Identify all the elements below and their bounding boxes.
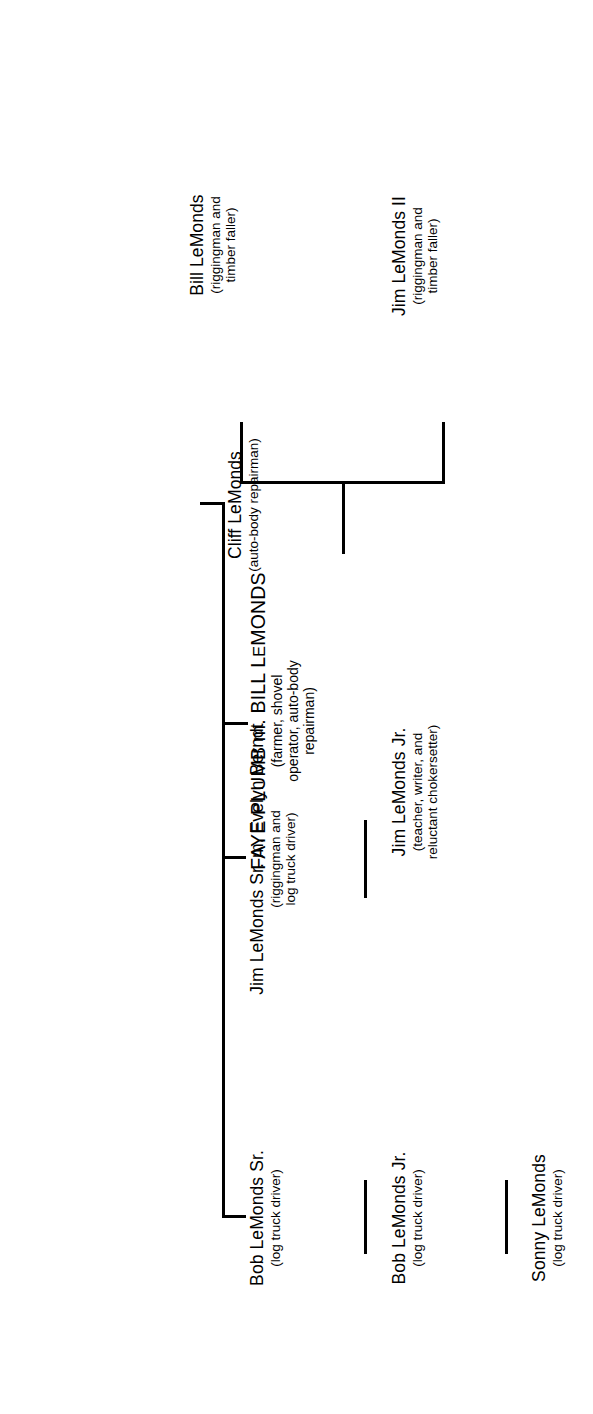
node-jim-lemonds-sr: Jim LeMonds Sr. m. Evelyn Berndt (riggin… (248, 609, 298, 1109)
node-jim-lemonds-ii-occupation: (riggingman and timber faller) (410, 111, 441, 401)
connector-root-to-jim-sr (222, 856, 246, 859)
node-jim-lemonds-jr: Jim LeMonds Jr. (teacher, writer, and re… (390, 542, 440, 1042)
node-sonny-lemonds-occupation: (log truck driver) (550, 1098, 565, 1338)
node-bob-lemonds-jr-name: Bob LeMonds Jr. (390, 1098, 410, 1338)
connector-cliff-to-bill (240, 422, 243, 484)
node-cliff-lemonds-name: Cliff LeMonds (226, 359, 246, 651)
node-cliff-lemonds-occupation: (auto-body repairman) (246, 359, 261, 651)
connector-root-stem (222, 722, 248, 725)
connector-root-to-bob-sr (222, 1215, 246, 1218)
connector-bob-sr-to-bob-jr (364, 1180, 367, 1254)
node-jim-lemonds-sr-name: Jim LeMonds Sr. m. Evelyn Berndt (248, 609, 268, 1109)
node-bob-lemonds-jr-occupation: (log truck driver) (410, 1098, 425, 1338)
node-cliff-lemonds: Cliff LeMonds (auto-body repairman) (226, 359, 261, 651)
node-bill-lemonds-occupation: (riggingman and timber faller) (208, 100, 239, 390)
connector-cliff-to-jim-ii (442, 422, 445, 484)
node-bob-lemonds-sr-occupation: (log truck driver) (268, 1098, 283, 1338)
node-bill-lemonds-name: Bill LeMonds (188, 100, 208, 390)
connector-cliff-stem (342, 482, 345, 554)
node-sonny-lemonds-name: Sonny LeMonds (530, 1098, 550, 1338)
family-tree-canvas: FAYE PLUMB m. BILL LEMONDS (farmer, shov… (0, 0, 593, 1414)
node-jim-lemonds-jr-name: Jim LeMonds Jr. (390, 542, 410, 1042)
node-bill-lemonds: Bill LeMonds (riggingman and timber fall… (188, 100, 238, 390)
connector-cliff-children-bar (240, 481, 445, 484)
connector-bob-jr-to-sonny (505, 1180, 508, 1254)
node-jim-lemonds-ii-name: Jim LeMonds II (390, 111, 410, 401)
node-bob-lemonds-jr: Bob LeMonds Jr. (log truck driver) (390, 1098, 425, 1338)
node-sonny-lemonds: Sonny LeMonds (log truck driver) (530, 1098, 565, 1338)
node-jim-lemonds-sr-occupation: (riggingman and log truck driver) (268, 609, 299, 1109)
node-jim-lemonds-jr-occupation: (teacher, writer, and reluctant chokerse… (410, 542, 441, 1042)
family-tree-page: FAYE PLUMB m. BILL LEMONDS (farmer, shov… (0, 0, 593, 1414)
connector-root-sibling-bar (222, 502, 225, 1218)
connector-jim-sr-to-jim-jr (364, 820, 367, 898)
connector-root-to-cliff (200, 502, 224, 505)
node-bob-lemonds-sr-name: Bob LeMonds Sr. (248, 1098, 268, 1338)
node-bob-lemonds-sr: Bob LeMonds Sr. (log truck driver) (248, 1098, 283, 1338)
node-jim-lemonds-ii: Jim LeMonds II (riggingman and timber fa… (390, 111, 440, 401)
